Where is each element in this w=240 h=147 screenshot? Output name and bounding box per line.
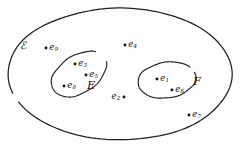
outcome-dot-e7 (188, 114, 191, 117)
outcome-subscript-e9: 9 (54, 46, 58, 52)
diagram-canvas (0, 0, 240, 147)
outcome-label-e3: e3 (78, 59, 87, 68)
outcome-dot-e3 (74, 63, 77, 66)
event-f-label: F (193, 76, 201, 88)
outcome-dot-e9 (45, 47, 48, 50)
outcome-dot-e5 (85, 74, 88, 77)
outcome-subscript-e7: 7 (197, 113, 201, 119)
outcome-subscript-e4: 4 (133, 43, 137, 49)
outcome-label-e2: e2 (112, 92, 121, 101)
outcome-label-e6: e6 (175, 85, 184, 94)
event-e-label: E (87, 80, 95, 92)
outcome-label-e9: e9 (49, 43, 58, 52)
outcome-dot-e1 (156, 78, 159, 81)
outcome-subscript-e8: 8 (72, 84, 76, 90)
outcome-dot-e8 (63, 85, 66, 88)
outcome-subscript-e6: 6 (180, 88, 184, 94)
outcome-dot-e6 (171, 89, 174, 92)
outcome-label-e1: e1 (160, 74, 169, 83)
outcome-label-e5: e5 (89, 70, 98, 79)
outcome-label-e4: e4 (128, 40, 137, 49)
outcome-label-e8: e8 (67, 81, 76, 90)
outcome-dot-e4 (124, 44, 127, 47)
euler-diagram-figure: ℰ E F e1e2e3e4e5e6e7e8e9 (0, 0, 240, 147)
outcome-subscript-e3: 3 (83, 62, 87, 68)
outcome-dot-e2 (123, 96, 126, 99)
sample-space-label: ℰ (20, 40, 26, 51)
outcome-base-e2: e (112, 91, 117, 101)
outcome-subscript-e5: 5 (94, 73, 98, 79)
outcome-subscript-e1: 1 (165, 77, 169, 83)
outcome-label-e7: e7 (192, 110, 201, 119)
outcome-subscript-e2: 2 (117, 95, 121, 101)
